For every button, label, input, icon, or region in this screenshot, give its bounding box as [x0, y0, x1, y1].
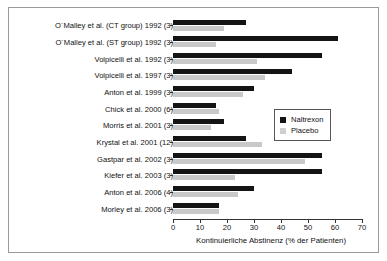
category-label: Anton et al. 1999 (3) — [104, 88, 173, 97]
category-label: Morley et al. 2006 (3) — [101, 205, 173, 214]
legend-item-naltrexon: Naltrexon — [280, 114, 324, 125]
category-label: Kiefer et al. 2003 (3) — [104, 171, 173, 180]
category-label: O´Malley et al. (CT group) 1992 (3) — [55, 21, 173, 30]
x-tick — [308, 219, 309, 223]
bar-placebo — [173, 142, 262, 147]
bar-group — [173, 85, 369, 102]
bars-container — [173, 18, 369, 218]
x-tick-label: 60 — [331, 223, 339, 232]
bar-placebo — [173, 125, 211, 130]
bar-naltrexon — [173, 153, 322, 158]
bar-naltrexon — [173, 36, 338, 41]
bar-group — [173, 151, 369, 168]
bar-group — [173, 118, 369, 135]
category-label: Chick et al. 2000 (6) — [105, 105, 173, 114]
bar-naltrexon — [173, 186, 254, 191]
bar-naltrexon — [173, 69, 292, 74]
bar-placebo — [173, 192, 238, 197]
x-tick-label: 50 — [304, 223, 312, 232]
category-label: Krystal et al. 2001 (12) — [97, 138, 173, 147]
category-label: Volpicelli et al. 1997 (3) — [94, 71, 173, 80]
bar-naltrexon — [173, 86, 254, 91]
legend-label-naltrexon: Naltrexon — [291, 115, 324, 124]
chart-legend: Naltrexon Placebo — [274, 109, 331, 141]
bar-placebo — [173, 159, 305, 164]
bar-placebo — [173, 75, 265, 80]
bar-group — [173, 135, 369, 152]
bar-naltrexon — [173, 203, 219, 208]
legend-swatch-placebo-icon — [280, 128, 286, 134]
x-tick — [362, 219, 363, 223]
category-label: Anton et al. 2006 (4) — [104, 188, 173, 197]
x-tick-label: 10 — [196, 223, 204, 232]
bar-placebo — [173, 42, 216, 47]
bar-placebo — [173, 92, 243, 97]
x-tick — [254, 219, 255, 223]
bar-group — [173, 68, 369, 85]
x-tick — [281, 219, 282, 223]
x-tick-label: 70 — [358, 223, 366, 232]
bar-naltrexon — [173, 169, 322, 174]
x-tick — [173, 219, 174, 223]
bar-group — [173, 35, 369, 52]
bar-placebo — [173, 209, 219, 214]
bar-naltrexon — [173, 53, 322, 58]
bar-placebo — [173, 109, 219, 114]
x-tick — [227, 219, 228, 223]
bar-group — [173, 185, 369, 202]
bar-naltrexon — [173, 136, 246, 141]
bar-group — [173, 168, 369, 185]
bar-placebo — [173, 175, 235, 180]
x-tick — [335, 219, 336, 223]
bar-placebo — [173, 26, 224, 31]
bar-naltrexon — [173, 119, 224, 124]
legend-label-placebo: Placebo — [291, 126, 318, 135]
chart-frame: O´Malley et al. (CT group) 1992 (3)O´Mal… — [8, 7, 379, 253]
category-label: Morris et al. 2001 (3) — [103, 121, 173, 130]
x-tick-label: 0 — [171, 223, 175, 232]
bar-naltrexon — [173, 20, 246, 25]
bar-group — [173, 101, 369, 118]
x-tick-label: 20 — [223, 223, 231, 232]
x-tick — [200, 219, 201, 223]
bar-naltrexon — [173, 103, 216, 108]
category-label: Gastpar et al. 2002 (3) — [97, 155, 173, 164]
legend-item-placebo: Placebo — [280, 125, 324, 136]
x-axis-line — [173, 219, 362, 220]
category-label: Volpicelli et al. 1992 (3) — [94, 55, 173, 64]
legend-swatch-naltrexon-icon — [280, 117, 286, 123]
x-tick-label: 30 — [250, 223, 258, 232]
x-axis-title: Kontinuierliche Abstinenz (% der Patient… — [173, 236, 369, 245]
x-tick-label: 40 — [277, 223, 285, 232]
chart-plot-area: O´Malley et al. (CT group) 1992 (3)O´Mal… — [9, 8, 380, 254]
category-label: O´Malley et al. (ST group) 1992 (3) — [55, 38, 173, 47]
bar-group — [173, 51, 369, 68]
bar-placebo — [173, 59, 257, 64]
category-axis-labels: O´Malley et al. (CT group) 1992 (3)O´Mal… — [13, 18, 173, 218]
bar-group — [173, 18, 369, 35]
bar-group — [173, 201, 369, 218]
